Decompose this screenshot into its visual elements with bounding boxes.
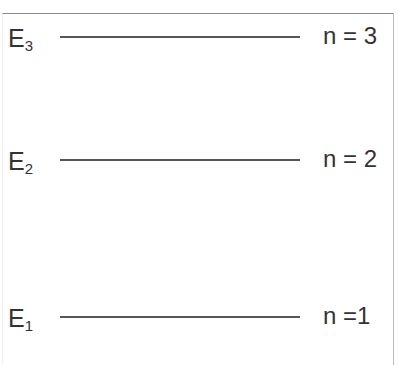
energy-subscript: 2 — [25, 160, 33, 177]
energy-level-line-1 — [60, 316, 300, 318]
quantum-number-label-1: n =1 — [323, 304, 370, 328]
energy-level-2: E2 n = 2 — [0, 145, 398, 185]
quantum-number-label-2: n = 2 — [323, 147, 377, 171]
energy-symbol: E — [8, 304, 25, 332]
energy-label-e1: E1 — [8, 306, 33, 331]
energy-symbol: E — [8, 24, 25, 52]
energy-level-1: E1 n =1 — [0, 302, 398, 342]
energy-subscript: 3 — [25, 37, 33, 54]
energy-label-e2: E2 — [8, 149, 33, 174]
energy-label-e3: E3 — [8, 26, 33, 51]
energy-level-line-2 — [60, 159, 300, 161]
energy-level-line-3 — [60, 36, 300, 38]
energy-level-3: E3 n = 3 — [0, 22, 398, 62]
energy-symbol: E — [8, 147, 25, 175]
quantum-number-label-3: n = 3 — [323, 24, 377, 48]
energy-subscript: 1 — [25, 317, 33, 334]
